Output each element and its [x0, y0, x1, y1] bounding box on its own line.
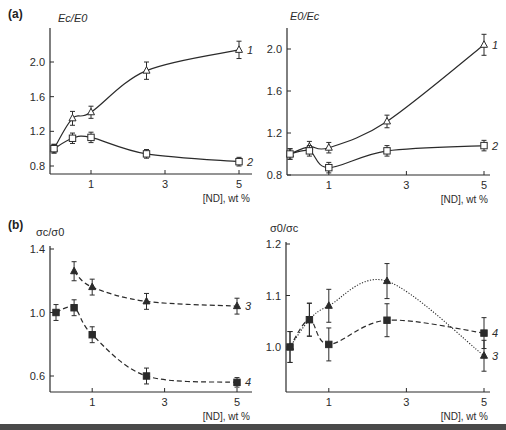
- y-axis-label: Ec/E0: [58, 12, 88, 24]
- y-tick-label: 1.2: [30, 125, 45, 137]
- series-1-line: [290, 45, 484, 154]
- square-marker: [143, 373, 149, 379]
- x-tick-label: 1: [88, 178, 94, 190]
- series-label-3: 3: [492, 350, 499, 362]
- square-marker: [384, 317, 390, 323]
- square-marker: [143, 151, 149, 157]
- series-label-4: 4: [245, 376, 251, 388]
- series-label-2: 2: [491, 140, 498, 152]
- square-marker: [481, 142, 487, 148]
- square-marker: [326, 164, 332, 170]
- y-tick-label: 2.0: [267, 43, 282, 55]
- x-axis-label: [ND], wt %: [203, 411, 250, 422]
- triangle-marker: [143, 297, 150, 304]
- x-tick-label: 1: [326, 179, 332, 191]
- y-tick-label: 1.1: [266, 290, 281, 302]
- y-axis-label: σc/σ0: [36, 226, 64, 238]
- square-marker: [384, 148, 390, 154]
- square-marker: [53, 309, 59, 315]
- y-tick-label: 0.8: [267, 169, 282, 181]
- triangle-marker: [325, 302, 332, 309]
- y-tick-label: 0.8: [30, 160, 45, 172]
- series-label-1: 1: [492, 39, 498, 51]
- x-tick-label: 3: [162, 396, 168, 408]
- square-marker: [306, 148, 312, 154]
- y-tick-label: 1.0: [266, 341, 281, 353]
- square-marker: [89, 332, 95, 338]
- triangle-marker: [236, 46, 243, 53]
- triangle-marker: [481, 41, 488, 48]
- series-label-1: 1: [247, 44, 253, 56]
- x-tick-label: 3: [162, 178, 168, 190]
- square-marker: [481, 330, 487, 336]
- square-marker: [71, 305, 77, 311]
- y-tick-label: 1.6: [30, 91, 45, 103]
- y-axis-label: σ0/σc: [270, 222, 299, 234]
- square-marker: [326, 341, 332, 347]
- bottom-border-bar: [0, 424, 506, 430]
- y-tick-label: 1.2: [266, 238, 281, 250]
- y-axis-label: E0/Ec: [290, 10, 320, 22]
- x-axis-label: [ND], wt %: [203, 193, 250, 204]
- y-tick-label: 1.2: [267, 127, 282, 139]
- square-marker: [69, 135, 75, 141]
- figure-canvas: Ec/E00.81.21.62.0135[ND], wt %12E0/Ec0.8…: [0, 0, 506, 430]
- x-tick-label: 1: [326, 396, 332, 408]
- triangle-marker: [234, 302, 241, 309]
- triangle-marker: [481, 352, 488, 359]
- x-tick-label: 5: [481, 396, 487, 408]
- chart-b-left: σc/σ00.61.01.4135[ND], wt %34: [30, 226, 252, 422]
- x-axis-label: [ND], wt %: [441, 411, 488, 422]
- triangle-marker: [89, 283, 96, 290]
- y-tick-label: 0.6: [30, 370, 45, 382]
- triangle-marker: [69, 114, 76, 121]
- square-marker: [287, 344, 293, 350]
- square-marker: [51, 145, 57, 151]
- series-label-3: 3: [245, 300, 252, 312]
- y-tick-label: 1.4: [30, 243, 45, 255]
- series-3-line: [74, 271, 237, 306]
- square-marker: [306, 317, 312, 323]
- x-tick-label: 3: [403, 179, 409, 191]
- chart-a-right: E0/Ec0.81.21.62.0135[ND], wt %12: [267, 10, 498, 205]
- y-tick-label: 1.6: [267, 85, 282, 97]
- x-tick-label: 5: [236, 178, 242, 190]
- series-label-4: 4: [492, 327, 498, 339]
- square-marker: [88, 134, 94, 140]
- chart-a-left: Ec/E00.81.21.62.0135[ND], wt %12: [30, 12, 253, 204]
- triangle-marker: [88, 108, 95, 115]
- x-tick-label: 5: [481, 179, 487, 191]
- y-tick-label: 1.0: [30, 307, 45, 319]
- square-marker: [234, 379, 240, 385]
- y-tick-label: 2.0: [30, 56, 45, 68]
- triangle-marker: [384, 117, 391, 124]
- square-marker: [236, 158, 242, 164]
- square-marker: [287, 151, 293, 157]
- series-label-2: 2: [246, 156, 253, 168]
- x-tick-label: 1: [89, 396, 95, 408]
- x-tick-label: 3: [403, 396, 409, 408]
- triangle-marker: [71, 267, 78, 274]
- x-axis-label: [ND], wt %: [441, 194, 488, 205]
- chart-b-right: σ0/σc1.01.11.2135[ND], wt %34: [266, 222, 499, 422]
- x-tick-label: 5: [234, 396, 240, 408]
